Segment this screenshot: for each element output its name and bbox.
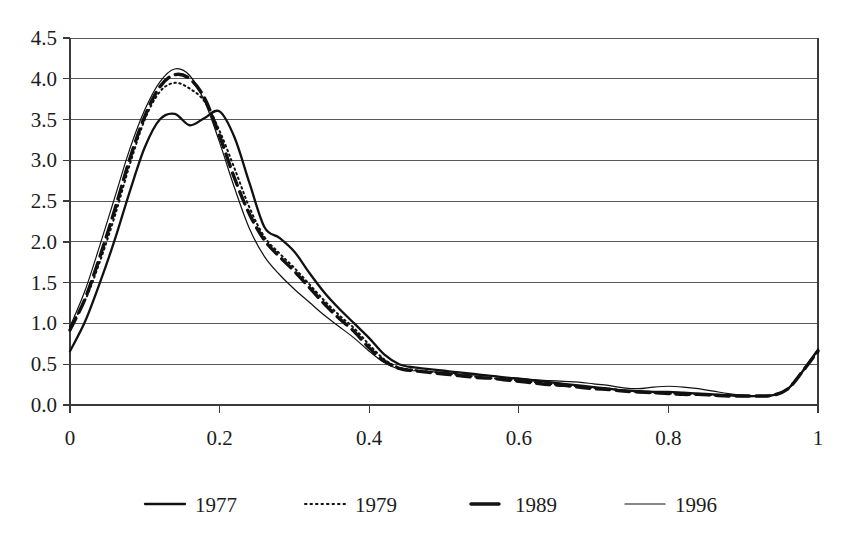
y-tick-label: 0.0	[31, 393, 57, 417]
legend-label-1977: 1977	[195, 493, 237, 517]
y-tick-label: 4.0	[31, 67, 57, 91]
legend-label-1979: 1979	[355, 493, 397, 517]
y-tick-label: 3.5	[31, 108, 57, 132]
legend-label-1996: 1996	[675, 493, 717, 517]
chart-canvas: 0.00.51.01.52.02.53.03.54.04.5 00.20.40.…	[0, 0, 842, 540]
x-tick-label: 0.4	[356, 426, 383, 450]
y-tick-label: 2.0	[31, 230, 57, 254]
x-tick-label: 0.6	[506, 426, 532, 450]
line-chart: 0.00.51.01.52.02.53.03.54.04.5 00.20.40.…	[0, 0, 842, 540]
y-tick-label: 4.5	[31, 26, 57, 50]
x-tick-label: 1	[813, 426, 824, 450]
y-tick-label: 3.0	[31, 148, 57, 172]
x-tick-label: 0	[65, 426, 76, 450]
y-tick-label: 1.0	[31, 311, 57, 335]
y-tick-label: 1.5	[31, 271, 57, 295]
chart-background	[0, 0, 842, 540]
y-tick-label: 0.5	[31, 352, 57, 376]
legend-label-1989: 1989	[515, 493, 557, 517]
x-tick-label: 0.2	[206, 426, 232, 450]
x-tick-label: 0.8	[655, 426, 681, 450]
y-tick-label: 2.5	[31, 189, 57, 213]
